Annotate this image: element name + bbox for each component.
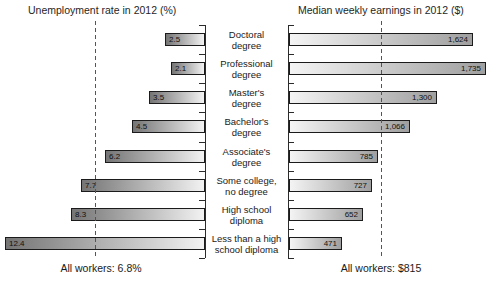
earnings-bar: 652 (289, 208, 363, 221)
category-label: Professionaldegree (206, 54, 287, 83)
unemployment-value-label: 2.1 (175, 65, 186, 73)
education-pay-unemployment-chart: Unemployment rate in 2012 (%) Median wee… (0, 0, 492, 283)
earnings-value-label: 785 (360, 153, 373, 161)
category-label: High schooldiploma (206, 200, 287, 229)
unemployment-bar: 7.7 (81, 179, 205, 192)
unemployment-value-label: 12.4 (9, 240, 25, 248)
earnings-bar: 785 (289, 150, 378, 163)
unemployment-bar: 3.5 (149, 91, 205, 104)
right-reference-line (381, 21, 382, 258)
right-axis-tick (288, 258, 294, 259)
unemployment-bar: 2.1 (171, 62, 205, 75)
right-reference-label: All workers: $815 (341, 262, 422, 274)
unemployment-value-label: 2.5 (169, 36, 180, 44)
category-label: Master'sdegree (206, 83, 287, 112)
category-label: Some college,no degree (206, 171, 287, 200)
earnings-value-label: 1,735 (461, 65, 481, 73)
earnings-value-label: 1,066 (385, 123, 405, 131)
earnings-bar: 1,300 (289, 91, 437, 104)
category-label: Less than a highschool diploma (206, 229, 287, 258)
earnings-bar: 471 (289, 237, 342, 250)
unemployment-bar: 12.4 (5, 237, 205, 250)
unemployment-value-label: 8.3 (75, 211, 86, 219)
unemployment-value-label: 6.2 (109, 153, 120, 161)
category-label: Associate'sdegree (206, 142, 287, 171)
unemployment-value-label: 3.5 (153, 94, 164, 102)
earnings-bar: 1,066 (289, 120, 410, 133)
earnings-value-label: 652 (345, 211, 358, 219)
unemployment-bar: 4.5 (132, 120, 205, 133)
earnings-value-label: 727 (354, 182, 367, 190)
earnings-value-label: 471 (324, 240, 337, 248)
unemployment-bar: 6.2 (105, 150, 205, 163)
unemployment-value-label: 4.5 (136, 123, 147, 131)
left-axis-title: Unemployment rate in 2012 (%) (28, 4, 176, 16)
earnings-value-label: 1,624 (448, 36, 468, 44)
category-label: Bachelor'sdegree (206, 112, 287, 141)
earnings-bar: 1,735 (289, 62, 486, 75)
earnings-value-label: 1,300 (412, 94, 432, 102)
category-label: Doctoraldegree (206, 25, 287, 54)
unemployment-bar: 8.3 (71, 208, 205, 221)
left-reference-label: All workers: 6.8% (60, 262, 141, 274)
unemployment-bar: 2.5 (165, 33, 205, 46)
left-axis-tick (199, 258, 205, 259)
earnings-bar: 727 (289, 179, 372, 192)
right-axis-title: Median weekly earnings in 2012 ($) (298, 4, 464, 16)
left-reference-line (95, 21, 96, 258)
right-axis-line (288, 25, 289, 258)
